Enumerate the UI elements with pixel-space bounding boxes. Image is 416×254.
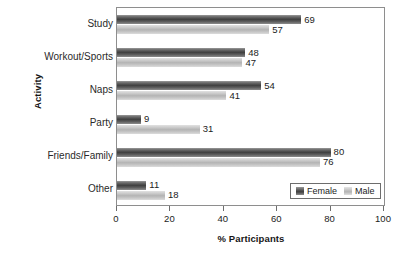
x-tick-label: 20 bbox=[164, 213, 175, 224]
x-tick-mark bbox=[383, 206, 384, 211]
legend-entry-male: Male bbox=[344, 186, 375, 196]
bar-female-0 bbox=[117, 15, 301, 24]
x-tick-label: 100 bbox=[375, 213, 391, 224]
x-tick-mark bbox=[276, 206, 277, 211]
bar-male-3 bbox=[117, 125, 200, 134]
bar-value-label: 54 bbox=[264, 81, 275, 91]
bar-female-3 bbox=[117, 115, 141, 124]
x-axis-ticks: 020406080100 bbox=[116, 206, 386, 230]
legend-swatch-male-icon bbox=[344, 187, 352, 195]
y-axis-tick-labels: StudyWorkout/SportsNapsPartyFriends/Fami… bbox=[0, 0, 113, 254]
bar-value-label: 9 bbox=[144, 114, 149, 124]
legend-label: Female bbox=[307, 186, 337, 196]
bar-value-label: 57 bbox=[272, 25, 283, 35]
x-tick-mark bbox=[223, 206, 224, 211]
y-axis-tick-label: Workout/Sports bbox=[1, 51, 113, 62]
x-axis-title: % Participants bbox=[116, 233, 386, 244]
bar-value-label: 18 bbox=[168, 190, 179, 200]
y-axis-tick-label: Study bbox=[1, 18, 113, 29]
bar-male-0 bbox=[117, 25, 269, 34]
legend-entry-female: Female bbox=[296, 186, 337, 196]
bar-chart: Activity StudyWorkout/SportsNapsPartyFri… bbox=[0, 0, 416, 254]
bar-female-5 bbox=[117, 181, 146, 190]
bar-value-label: 47 bbox=[245, 58, 256, 68]
bar-value-label: 76 bbox=[323, 157, 334, 167]
bar-value-label: 31 bbox=[203, 124, 214, 134]
x-tick-mark bbox=[169, 206, 170, 211]
plot-area: 69574847544193180761118 bbox=[116, 7, 385, 206]
legend-swatch-female-icon bbox=[296, 187, 304, 195]
y-axis-tick-label: Other bbox=[1, 183, 113, 194]
x-tick-label: 60 bbox=[271, 213, 282, 224]
bar-value-label: 41 bbox=[229, 91, 240, 101]
bar-male-5 bbox=[117, 191, 165, 200]
x-tick-mark bbox=[330, 206, 331, 211]
x-tick-label: 80 bbox=[324, 213, 335, 224]
bar-male-4 bbox=[117, 158, 320, 167]
bar-female-1 bbox=[117, 48, 245, 57]
bar-female-4 bbox=[117, 148, 331, 157]
x-tick-label: 40 bbox=[218, 213, 229, 224]
y-axis-tick-label: Naps bbox=[1, 84, 113, 95]
bar-male-2 bbox=[117, 91, 226, 100]
chart-legend: FemaleMale bbox=[290, 183, 381, 199]
x-tick-label: 0 bbox=[113, 213, 118, 224]
bar-value-label: 69 bbox=[304, 15, 315, 25]
y-axis-tick-label: Party bbox=[1, 117, 113, 128]
y-axis-tick-label: Friends/Family bbox=[1, 150, 113, 161]
bar-value-label: 11 bbox=[149, 180, 159, 190]
x-tick-mark bbox=[116, 206, 117, 211]
bar-male-1 bbox=[117, 58, 242, 67]
bar-value-label: 80 bbox=[334, 147, 345, 157]
legend-label: Male bbox=[355, 186, 375, 196]
